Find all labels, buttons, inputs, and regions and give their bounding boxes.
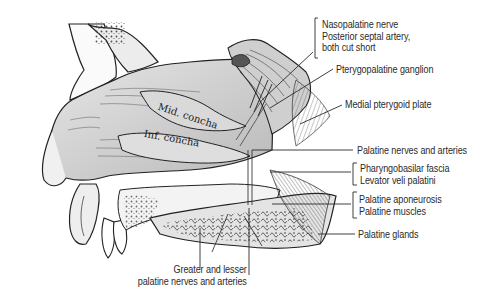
callout-palatine-glands: Palatine glands xyxy=(358,229,418,241)
callout-palatine-nerves-arteries: Palatine nerves and arteries xyxy=(357,145,467,157)
callout-palatine-aponeurosis: Palatine aponeurosis Palatine muscles xyxy=(359,194,442,217)
callout-nasopalatine: Nasopalatine nerve Posterior septal arte… xyxy=(322,19,410,54)
callout-line: Levator veli palatini xyxy=(360,175,449,187)
callout-line: Nasopalatine nerve xyxy=(322,19,410,31)
callout-pterygopalatine-ganglion: Pterygopalatine ganglion xyxy=(336,64,433,76)
callout-line: Pterygopalatine ganglion xyxy=(336,64,433,76)
callout-line: Palatine aponeurosis xyxy=(359,194,442,206)
callout-pharyngobasilar: Pharyngobasilar fascia Levator veli pala… xyxy=(360,163,449,186)
anatomical-figure: Mid. concha Inf. concha Nasopalatine ner… xyxy=(0,0,499,303)
callout-line: Greater and lesser xyxy=(138,264,247,276)
callout-line: Pharyngobasilar fascia xyxy=(360,163,449,175)
callout-line: Palatine glands xyxy=(358,229,418,241)
callout-line: Palatine nerves and arteries xyxy=(357,145,467,157)
callout-line: both cut short xyxy=(322,42,410,54)
callout-greater-lesser: Greater and lesser palatine nerves and a… xyxy=(138,264,247,287)
callout-line: palatine nerves and arteries xyxy=(138,276,247,288)
callout-line: Palatine muscles xyxy=(359,206,442,218)
callout-medial-pterygoid-plate: Medial pterygoid plate xyxy=(345,99,431,111)
callout-line: Medial pterygoid plate xyxy=(345,99,431,111)
